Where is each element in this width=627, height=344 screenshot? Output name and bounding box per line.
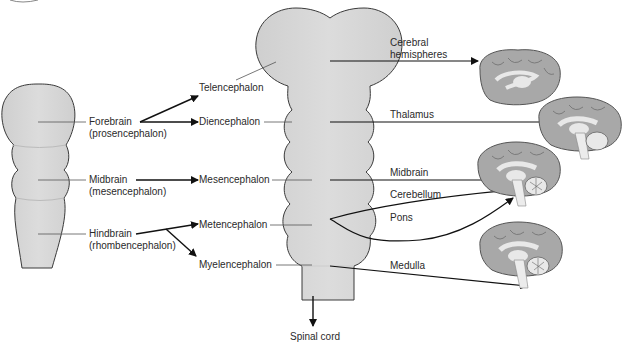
- label-diencephalon: Diencephalon: [199, 116, 260, 128]
- three-vesicle-embryo: [2, 84, 75, 268]
- label-hemispheres: hemispheres: [390, 49, 447, 61]
- brain-illustration-brainstem: [478, 142, 560, 206]
- brain-illustration-cerebrum: [480, 50, 560, 105]
- label-cerebral-hemispheres: Cerebral hemispheres: [390, 37, 447, 61]
- label-thalamus: Thalamus: [390, 109, 434, 121]
- five-vesicle-embryo: [256, 8, 402, 300]
- label-telencephalon: Telencephalon: [199, 82, 264, 94]
- label-hindbrain-name: Hindbrain: [89, 228, 176, 240]
- corner-fragment: [10, 0, 38, 2]
- label-midbrain-latin: (mesencephalon): [89, 186, 166, 198]
- label-spinal-cord: Spinal cord: [290, 331, 340, 343]
- label-hindbrain: Hindbrain (rhombencephalon): [89, 228, 176, 252]
- label-midbrain-name: Midbrain: [89, 174, 166, 186]
- label-myelencephalon: Myelencephalon: [199, 259, 272, 271]
- label-forebrain: Forebrain (prosencephalon): [89, 116, 167, 140]
- label-hindbrain-latin: (rhombencephalon): [89, 240, 176, 252]
- label-mesencephalon: Mesencephalon: [199, 174, 270, 186]
- label-forebrain-latin: (prosencephalon): [89, 128, 167, 140]
- label-medulla: Medulla: [390, 260, 425, 272]
- label-forebrain-name: Forebrain: [89, 116, 167, 128]
- label-cerebellum: Cerebellum: [390, 189, 441, 201]
- label-cerebral: Cerebral: [390, 37, 447, 49]
- brain-development-diagram: [0, 0, 627, 344]
- label-metencephalon: Metencephalon: [199, 219, 267, 231]
- label-midbrain-adult: Midbrain: [390, 167, 428, 179]
- brain-illustration-thalamus: [539, 97, 621, 159]
- label-pons: Pons: [390, 212, 413, 224]
- brain-illustration-medulla: [480, 222, 562, 288]
- label-midbrain-primary: Midbrain (mesencephalon): [89, 174, 166, 198]
